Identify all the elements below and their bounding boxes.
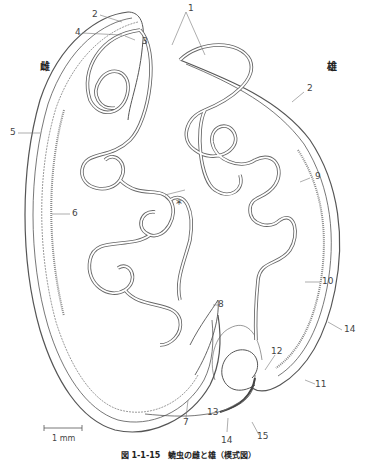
label-3: 3 <box>142 37 148 46</box>
figure-caption: 図 1-1-15 蟯虫の雌と雄（模式図） <box>0 449 377 460</box>
label-11: 11 <box>315 380 326 389</box>
asterisk-marker: * <box>176 198 182 210</box>
label-1: 1 <box>188 4 194 13</box>
label-8: 8 <box>218 300 224 309</box>
label-6: 6 <box>72 209 78 218</box>
scale-bar-label: 1 mm <box>52 434 75 443</box>
male-testis-coils <box>180 45 295 340</box>
label-9: 9 <box>315 172 321 181</box>
pinworm-diagram <box>0 0 377 463</box>
label-7: 7 <box>183 418 189 427</box>
female-uterus-coils <box>82 30 191 345</box>
label-13: 13 <box>207 408 218 417</box>
label-2-male: 2 <box>307 84 313 93</box>
label-14-lower: 14 <box>221 436 232 445</box>
label-14-upper: 14 <box>344 325 355 334</box>
male-label: 雄 <box>327 62 337 72</box>
label-4: 4 <box>75 28 81 37</box>
label-12: 12 <box>271 347 282 356</box>
label-5: 5 <box>10 128 16 137</box>
label-2-female: 2 <box>92 10 98 19</box>
female-tail <box>190 300 218 375</box>
label-15: 15 <box>257 432 268 441</box>
male-body <box>145 60 340 416</box>
female-label: 雌 <box>40 62 50 72</box>
label-10: 10 <box>322 277 333 286</box>
scale-bar <box>44 425 82 431</box>
